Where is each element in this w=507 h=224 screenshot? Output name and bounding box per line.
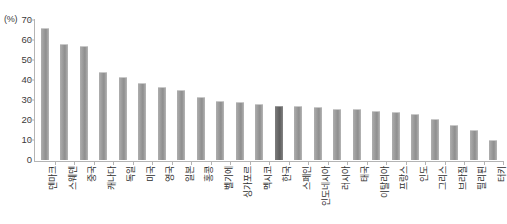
bar-slot <box>133 20 153 160</box>
bar-slot <box>445 20 465 160</box>
x-axis-tick-mark <box>191 161 192 165</box>
bar[interactable] <box>119 77 127 160</box>
bar[interactable] <box>470 130 478 160</box>
x-axis-category-label: 캐나다 <box>108 166 117 190</box>
bar[interactable] <box>392 112 400 160</box>
bar[interactable] <box>411 114 419 160</box>
bar-slot <box>152 20 172 160</box>
bar-slot <box>308 20 328 160</box>
x-axis-tick-mark <box>347 161 348 165</box>
x-axis-tick-mark <box>328 161 329 165</box>
x-axis-category-label: 태국 <box>361 166 370 182</box>
x-axis-category-label: 멕시코 <box>264 166 273 190</box>
x-axis-category-label: 한국 <box>283 166 292 182</box>
bar[interactable] <box>41 28 49 160</box>
bar[interactable] <box>216 101 224 160</box>
bar[interactable] <box>333 109 341 160</box>
bar-slot <box>74 20 94 160</box>
x-axis-category-label: 인도네시아 <box>322 166 331 206</box>
x-axis-tick-mark <box>464 161 465 165</box>
bar-slot <box>250 20 270 160</box>
bar[interactable] <box>275 106 283 160</box>
bar-slot <box>347 20 367 160</box>
y-axis-tick-mark <box>29 20 34 21</box>
bar[interactable] <box>431 119 439 160</box>
y-axis-tick-mark <box>29 120 34 121</box>
y-axis-tick-mark <box>29 40 34 41</box>
x-axis-category-label: 러시아 <box>342 166 351 190</box>
bar[interactable] <box>80 46 88 160</box>
bar[interactable] <box>314 107 322 160</box>
bar[interactable] <box>255 104 263 160</box>
x-axis-category-label: 벨기에 <box>225 166 234 190</box>
y-axis-tick-mark <box>29 100 34 101</box>
x-axis-tick-mark <box>269 161 270 165</box>
bar-slot <box>211 20 231 160</box>
bar[interactable] <box>236 102 244 160</box>
x-axis-category-label: 스웨덴 <box>69 166 78 190</box>
y-axis-tick-mark <box>29 60 34 61</box>
x-axis-tick-mark <box>289 161 290 165</box>
x-axis-tick-mark <box>113 161 114 165</box>
x-axis-tick-mark <box>308 161 309 165</box>
bar[interactable] <box>353 109 361 160</box>
bar[interactable] <box>158 87 166 160</box>
x-axis-tick-mark <box>386 161 387 165</box>
x-axis-category-label: 그리스 <box>439 166 448 190</box>
x-axis-tick-mark <box>172 161 173 165</box>
bar-slot <box>484 20 504 160</box>
bar-slot <box>386 20 406 160</box>
bar[interactable] <box>372 111 380 160</box>
bar-slot <box>35 20 55 160</box>
x-axis-tick-mark <box>425 161 426 165</box>
x-axis-category-label: 브라질 <box>459 166 468 190</box>
bar[interactable] <box>450 125 458 160</box>
x-axis-category-label: 미국 <box>147 166 156 182</box>
bar[interactable] <box>489 140 497 160</box>
x-axis-category-label: 덴마크 <box>49 166 58 190</box>
bar[interactable] <box>138 83 146 160</box>
y-axis-tick-mark <box>29 140 34 141</box>
bar-slot <box>328 20 348 160</box>
x-axis-category-label: 인도 <box>420 166 429 182</box>
y-axis-tick-mark <box>29 80 34 81</box>
bar[interactable] <box>60 44 68 160</box>
x-axis-category-label: 일본 <box>186 166 195 182</box>
bar[interactable] <box>177 90 185 160</box>
x-axis-category-label: 터키 <box>498 166 507 182</box>
bar-slot <box>269 20 289 160</box>
bar-slot <box>113 20 133 160</box>
bar-slot <box>55 20 75 160</box>
bar-slot <box>94 20 114 160</box>
x-axis-tick-mark <box>484 161 485 165</box>
x-axis-category-label: 프랑스 <box>400 166 409 190</box>
bar-slot <box>289 20 309 160</box>
bar-slot <box>230 20 250 160</box>
plot-area <box>35 20 503 160</box>
x-axis-tick-mark <box>503 161 504 165</box>
x-axis-category-label: 독일 <box>127 166 136 182</box>
x-axis-tick-mark <box>55 161 56 165</box>
x-axis-tick-mark <box>152 161 153 165</box>
x-axis-category-label: 싱가포르 <box>244 166 253 198</box>
bar-slot <box>464 20 484 160</box>
x-axis-category-label: 중국 <box>88 166 97 182</box>
x-axis-tick-mark <box>94 161 95 165</box>
y-axis-tick-label: 0 <box>8 155 32 165</box>
x-axis-tick-mark <box>230 161 231 165</box>
bar[interactable] <box>197 97 205 160</box>
bar[interactable] <box>294 106 302 160</box>
bar-slot <box>172 20 192 160</box>
bar-slot <box>367 20 387 160</box>
x-axis-tick-mark <box>250 161 251 165</box>
x-axis-tick-mark <box>74 161 75 165</box>
bar-slot <box>425 20 445 160</box>
y-axis-tick-labels: 010203040506070 <box>6 0 32 224</box>
bar-slot <box>406 20 426 160</box>
x-axis-tick-mark <box>445 161 446 165</box>
bar[interactable] <box>99 72 107 160</box>
x-axis-category-label: 필리핀 <box>478 166 487 190</box>
x-axis-tick-mark <box>406 161 407 165</box>
x-axis-tick-mark <box>211 161 212 165</box>
